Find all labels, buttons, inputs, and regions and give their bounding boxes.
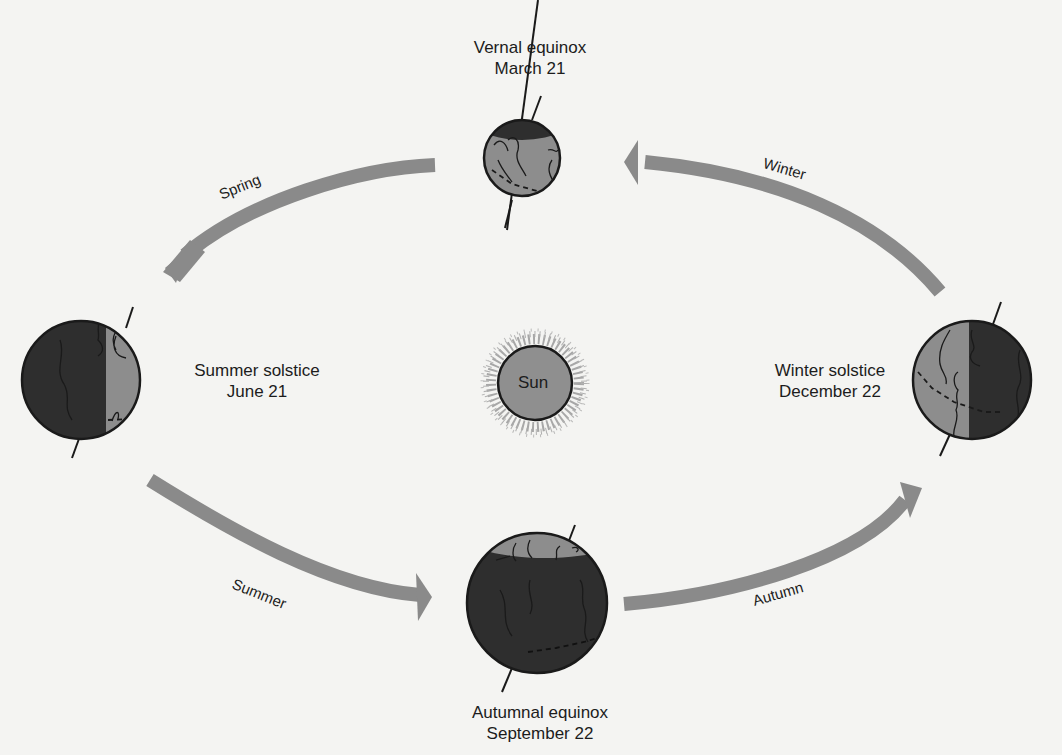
- earth-winter-solstice: [913, 302, 1039, 456]
- label-winter-solstice: Winter solstice December 22: [755, 360, 905, 402]
- earth-vernal-equinox: [462, 0, 582, 230]
- label-vernal-equinox: Vernal equinox March 21: [460, 37, 600, 79]
- sun-label: Sun: [518, 373, 548, 393]
- vernal-equinox-date: March 21: [460, 58, 600, 79]
- autumnal-equinox-title: Autumnal equinox: [460, 702, 620, 723]
- autumnal-equinox-date: September 22: [460, 723, 620, 744]
- summer-arrow: [150, 480, 432, 621]
- winter-solstice-title: Winter solstice: [755, 360, 905, 381]
- winter-solstice-date: December 22: [755, 381, 905, 402]
- earth-summer-solstice: [20, 307, 150, 458]
- summer-solstice-date: June 21: [182, 381, 332, 402]
- earth-autumnal-equinox: [455, 502, 635, 692]
- summer-solstice-title: Summer solstice: [182, 360, 332, 381]
- label-autumnal-equinox: Autumnal equinox September 22: [460, 702, 620, 744]
- spring-arrow: [163, 165, 435, 283]
- label-summer-solstice: Summer solstice June 21: [182, 360, 332, 402]
- vernal-equinox-title: Vernal equinox: [460, 37, 600, 58]
